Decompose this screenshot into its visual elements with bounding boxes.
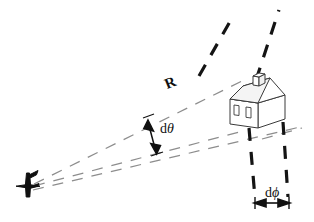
antenna-dish (29, 171, 38, 179)
theta-symbol: θ (167, 121, 174, 136)
d-theta-arrowhead-bottom (151, 144, 161, 155)
chimney-front (253, 76, 259, 86)
radar-antenna (16, 171, 40, 198)
house-chimney (253, 73, 265, 86)
house-window-left (234, 105, 239, 116)
beam-edge-upper-left (199, 18, 232, 76)
d-theta-label: dθ (160, 122, 174, 136)
d-theta-prefix: d (160, 121, 167, 136)
house-target (230, 73, 285, 128)
d-phi-arrowhead-left (254, 199, 266, 207)
radar-beam-diagram: R dθ dϕ (0, 0, 314, 222)
d-theta-tick-top (143, 114, 154, 118)
d-phi-arrowhead-right (278, 199, 290, 207)
d-theta-arrowhead-top (144, 120, 154, 131)
beam-ray-upper (34, 79, 246, 184)
beam-edge-group-upper (199, 10, 279, 80)
beam-edge-lower-right (283, 122, 288, 197)
d-phi-label: dϕ (265, 186, 279, 200)
beam-edge-upper-right (256, 10, 279, 80)
phi-symbol: ϕ (272, 185, 279, 200)
d-phi-prefix: d (265, 185, 272, 200)
beam-ray-middle (34, 131, 243, 186)
beam-ray-lower (33, 127, 300, 190)
house-window-right (246, 107, 251, 118)
